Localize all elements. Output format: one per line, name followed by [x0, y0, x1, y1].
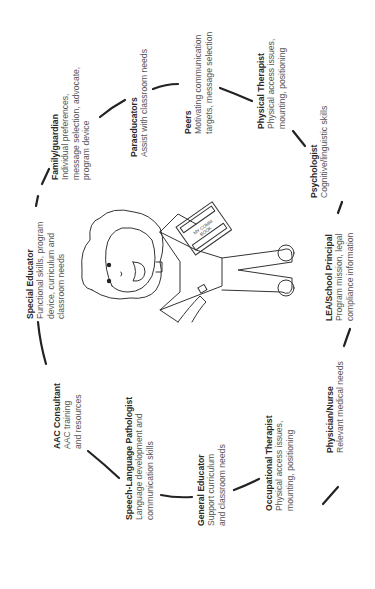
arm — [178, 296, 206, 322]
role-physician-nurse: Physician/Nurse Relevant medical needs — [325, 361, 346, 453]
torso — [160, 232, 222, 310]
nose — [121, 272, 122, 276]
role-physical-therapist: Physical Therapist Physical access issue… — [256, 39, 287, 129]
role-aac-consultant: AAC Consultant AAC training and resource… — [52, 383, 83, 449]
eye-icon — [107, 279, 111, 283]
team-diagram: MY COMM BOOK Family/guardian Individual … — [0, 0, 375, 589]
role-special-educator: Special Educator Functional skills, prog… — [25, 222, 67, 319]
face — [106, 228, 155, 292]
eye-icon — [107, 263, 111, 267]
role-peers: Peers Motivating communication targets, … — [183, 32, 214, 134]
role-psychologist: Psychologist Cognitive/linguistic skills — [309, 106, 330, 198]
role-family-guardian: Family/guardian Individual preferences, … — [50, 67, 92, 180]
role-speech-language-pathologist: Speech-Language Pathologist Language dev… — [124, 397, 155, 520]
hair — [82, 210, 163, 299]
legs — [222, 249, 292, 293]
role-paraeducators: Paraeducators Assist with classroom need… — [129, 49, 150, 157]
role-occupational-therapist: Occupational Therapist Physical access i… — [264, 415, 295, 511]
role-general-educator: General Educator Support curriculum and … — [196, 444, 227, 526]
communication-book: MY COMM BOOK — [176, 202, 232, 255]
role-lea-school-principal: LEA/School Principal Program mission, le… — [324, 233, 355, 321]
mouth — [133, 262, 145, 281]
